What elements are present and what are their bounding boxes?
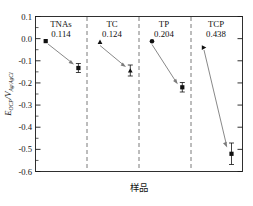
open-circuit-potential-scatter-chart: 0.1 0.0 -0.1 -0.2 -0.3 -0.4 -0.5 -0.6 EO…: [0, 0, 253, 206]
panel-tcp-start-marker: [202, 45, 207, 50]
panel-tc-end-marker: [128, 68, 133, 72]
y-tick-label-0: 0.1: [21, 12, 32, 22]
panel-tnas-start-marker: [44, 39, 48, 43]
x-axis-title: 样品: [130, 182, 148, 193]
panel-tc-start-marker: [98, 40, 103, 44]
panel-tcp-value: 0.438: [206, 29, 226, 39]
y-tick-label-1: 0.0: [21, 34, 32, 44]
panel-tp: TP 0.204: [150, 19, 185, 92]
y-axis-title-unit-sub: Ag/AgCl: [8, 72, 14, 93]
panel-tnas-end-marker: [76, 66, 80, 70]
panel-tcp: TCP 0.438: [202, 19, 234, 165]
panel-tp-value: 0.204: [154, 29, 174, 39]
panel-tp-arrow-line: [152, 45, 176, 82]
y-tick-label-4: -0.3: [18, 100, 32, 110]
panel-tcp-arrow-line: [204, 50, 226, 143]
y-tick-label-5: -0.4: [18, 122, 32, 132]
panel-tc-arrow-line: [100, 46, 124, 66]
y-axis-right-ticks: [238, 17, 243, 172]
y-tick-label-3: -0.2: [18, 78, 32, 88]
y-tick-label-2: -0.1: [18, 56, 32, 66]
y-axis-title: EOCP/VAg/AgCl: [3, 72, 14, 117]
y-tick-label-6: -0.5: [18, 144, 32, 154]
panel-tnas-arrow-line: [48, 44, 72, 63]
svg-text:EOCP/VAg/AgCl: EOCP/VAg/AgCl: [3, 72, 14, 117]
panel-tp-label: TP: [159, 19, 169, 29]
panel-tcp-arrow-head: [223, 142, 227, 148]
panel-tp-arrow-head: [173, 79, 178, 84]
panel-tnas-label: TNAs: [50, 19, 72, 29]
panel-tc-label: TC: [106, 19, 117, 29]
panel-tc: TC 0.124: [98, 19, 133, 76]
y-tick-label-7: -0.6: [18, 167, 32, 177]
panel-tcp-end-marker: [229, 152, 233, 156]
panel-tnas-value: 0.114: [51, 29, 71, 39]
y-axis-title-main-sub: OCP: [8, 99, 14, 111]
panel-tp-start-marker: [150, 39, 155, 44]
panel-tp-end-marker: [180, 85, 184, 89]
chart-figure: 0.1 0.0 -0.1 -0.2 -0.3 -0.4 -0.5 -0.6 EO…: [0, 0, 253, 206]
panel-dividers: [87, 17, 191, 171]
panel-tcp-label: TCP: [208, 19, 224, 29]
panel-tnas: TNAs 0.114: [44, 19, 81, 73]
panel-tc-value: 0.124: [102, 29, 122, 39]
